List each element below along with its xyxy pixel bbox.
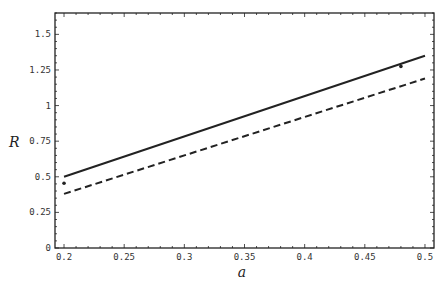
- y-axis-label: R: [8, 134, 20, 150]
- x-axis-label: a: [238, 264, 246, 280]
- y-tick-label: 1.25: [29, 65, 51, 75]
- y-tick-label: 0: [46, 243, 51, 253]
- line-chart: 0.20.250.30.350.40.450.5 00.250.50.7511.…: [0, 0, 446, 283]
- y-tick-label: 0.75: [29, 136, 51, 146]
- x-tick-label: 0.35: [234, 252, 256, 262]
- y-tick-label: 0.5: [35, 172, 51, 182]
- x-tick-label: 0.2: [56, 252, 72, 262]
- x-tick-label: 0.25: [113, 252, 135, 262]
- dashed-line: [64, 79, 425, 194]
- x-axis-ticks: 0.20.250.30.350.40.450.5: [56, 13, 433, 262]
- x-tick-label: 0.45: [354, 252, 376, 262]
- data-series: [62, 56, 425, 194]
- x-tick-label: 0.5: [417, 252, 433, 262]
- y-tick-label: 1.5: [35, 29, 51, 39]
- y-tick-label: 0.25: [29, 207, 51, 217]
- x-tick-label: 0.4: [297, 252, 313, 262]
- data-point: [62, 181, 66, 185]
- x-tick-label: 0.3: [176, 252, 192, 262]
- data-point: [399, 65, 403, 69]
- plot-frame: [55, 13, 434, 248]
- solid-line: [64, 56, 425, 177]
- y-tick-label: 1: [46, 101, 51, 111]
- y-axis-ticks: 00.250.50.7511.251.5: [29, 13, 434, 253]
